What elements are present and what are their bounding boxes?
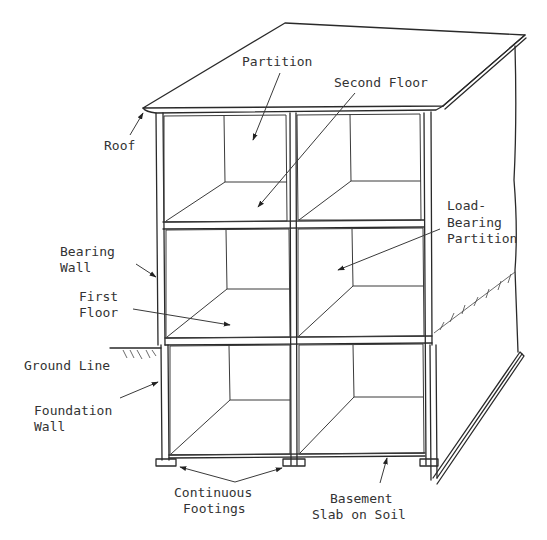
arrow-foundation-wall bbox=[120, 382, 158, 398]
label-first-floor-1: First bbox=[79, 289, 118, 304]
label-ground-line: Ground Line bbox=[24, 358, 110, 373]
label-foundation-wall-2: Wall bbox=[34, 419, 65, 434]
upper-rooms bbox=[164, 114, 421, 222]
roof-slab bbox=[143, 23, 526, 113]
label-second-floor: Second Floor bbox=[334, 75, 428, 90]
label-continuous-footings-1: Continuous bbox=[174, 485, 252, 500]
middle-rooms bbox=[166, 228, 424, 338]
arrow-first-floor bbox=[133, 309, 230, 325]
label-load-bearing-3: Partition bbox=[447, 231, 517, 246]
arrow-footing-center bbox=[235, 468, 282, 482]
foundation-wall bbox=[161, 345, 169, 460]
arrow-basement-slab bbox=[380, 458, 387, 483]
label-bearing-wall-1: Bearing bbox=[60, 244, 115, 259]
label-load-bearing-1: Load- bbox=[447, 198, 486, 213]
label-first-floor-2: Floor bbox=[79, 305, 118, 320]
label-basement-slab-2: Slab on Soil bbox=[312, 507, 406, 522]
label-foundation-wall-1: Foundation bbox=[34, 403, 112, 418]
label-continuous-footings-2: Footings bbox=[183, 501, 246, 516]
label-load-bearing-2: Bearing bbox=[447, 215, 502, 230]
label-bearing-wall-2: Wall bbox=[60, 260, 91, 275]
arrow-second-floor bbox=[258, 93, 355, 207]
arrow-roof bbox=[130, 113, 143, 135]
label-basement-slab-1: Basement bbox=[330, 491, 393, 506]
ground-line bbox=[110, 348, 161, 359]
arrow-footing-left bbox=[180, 467, 235, 482]
label-roof: Roof bbox=[104, 138, 135, 153]
side-wall bbox=[430, 46, 524, 484]
building-section-diagram: Partition Second Floor Roof Load- Bearin… bbox=[0, 0, 547, 540]
label-partition: Partition bbox=[242, 54, 312, 69]
leader-arrows bbox=[120, 73, 440, 483]
arrow-bearing-wall bbox=[136, 264, 156, 277]
